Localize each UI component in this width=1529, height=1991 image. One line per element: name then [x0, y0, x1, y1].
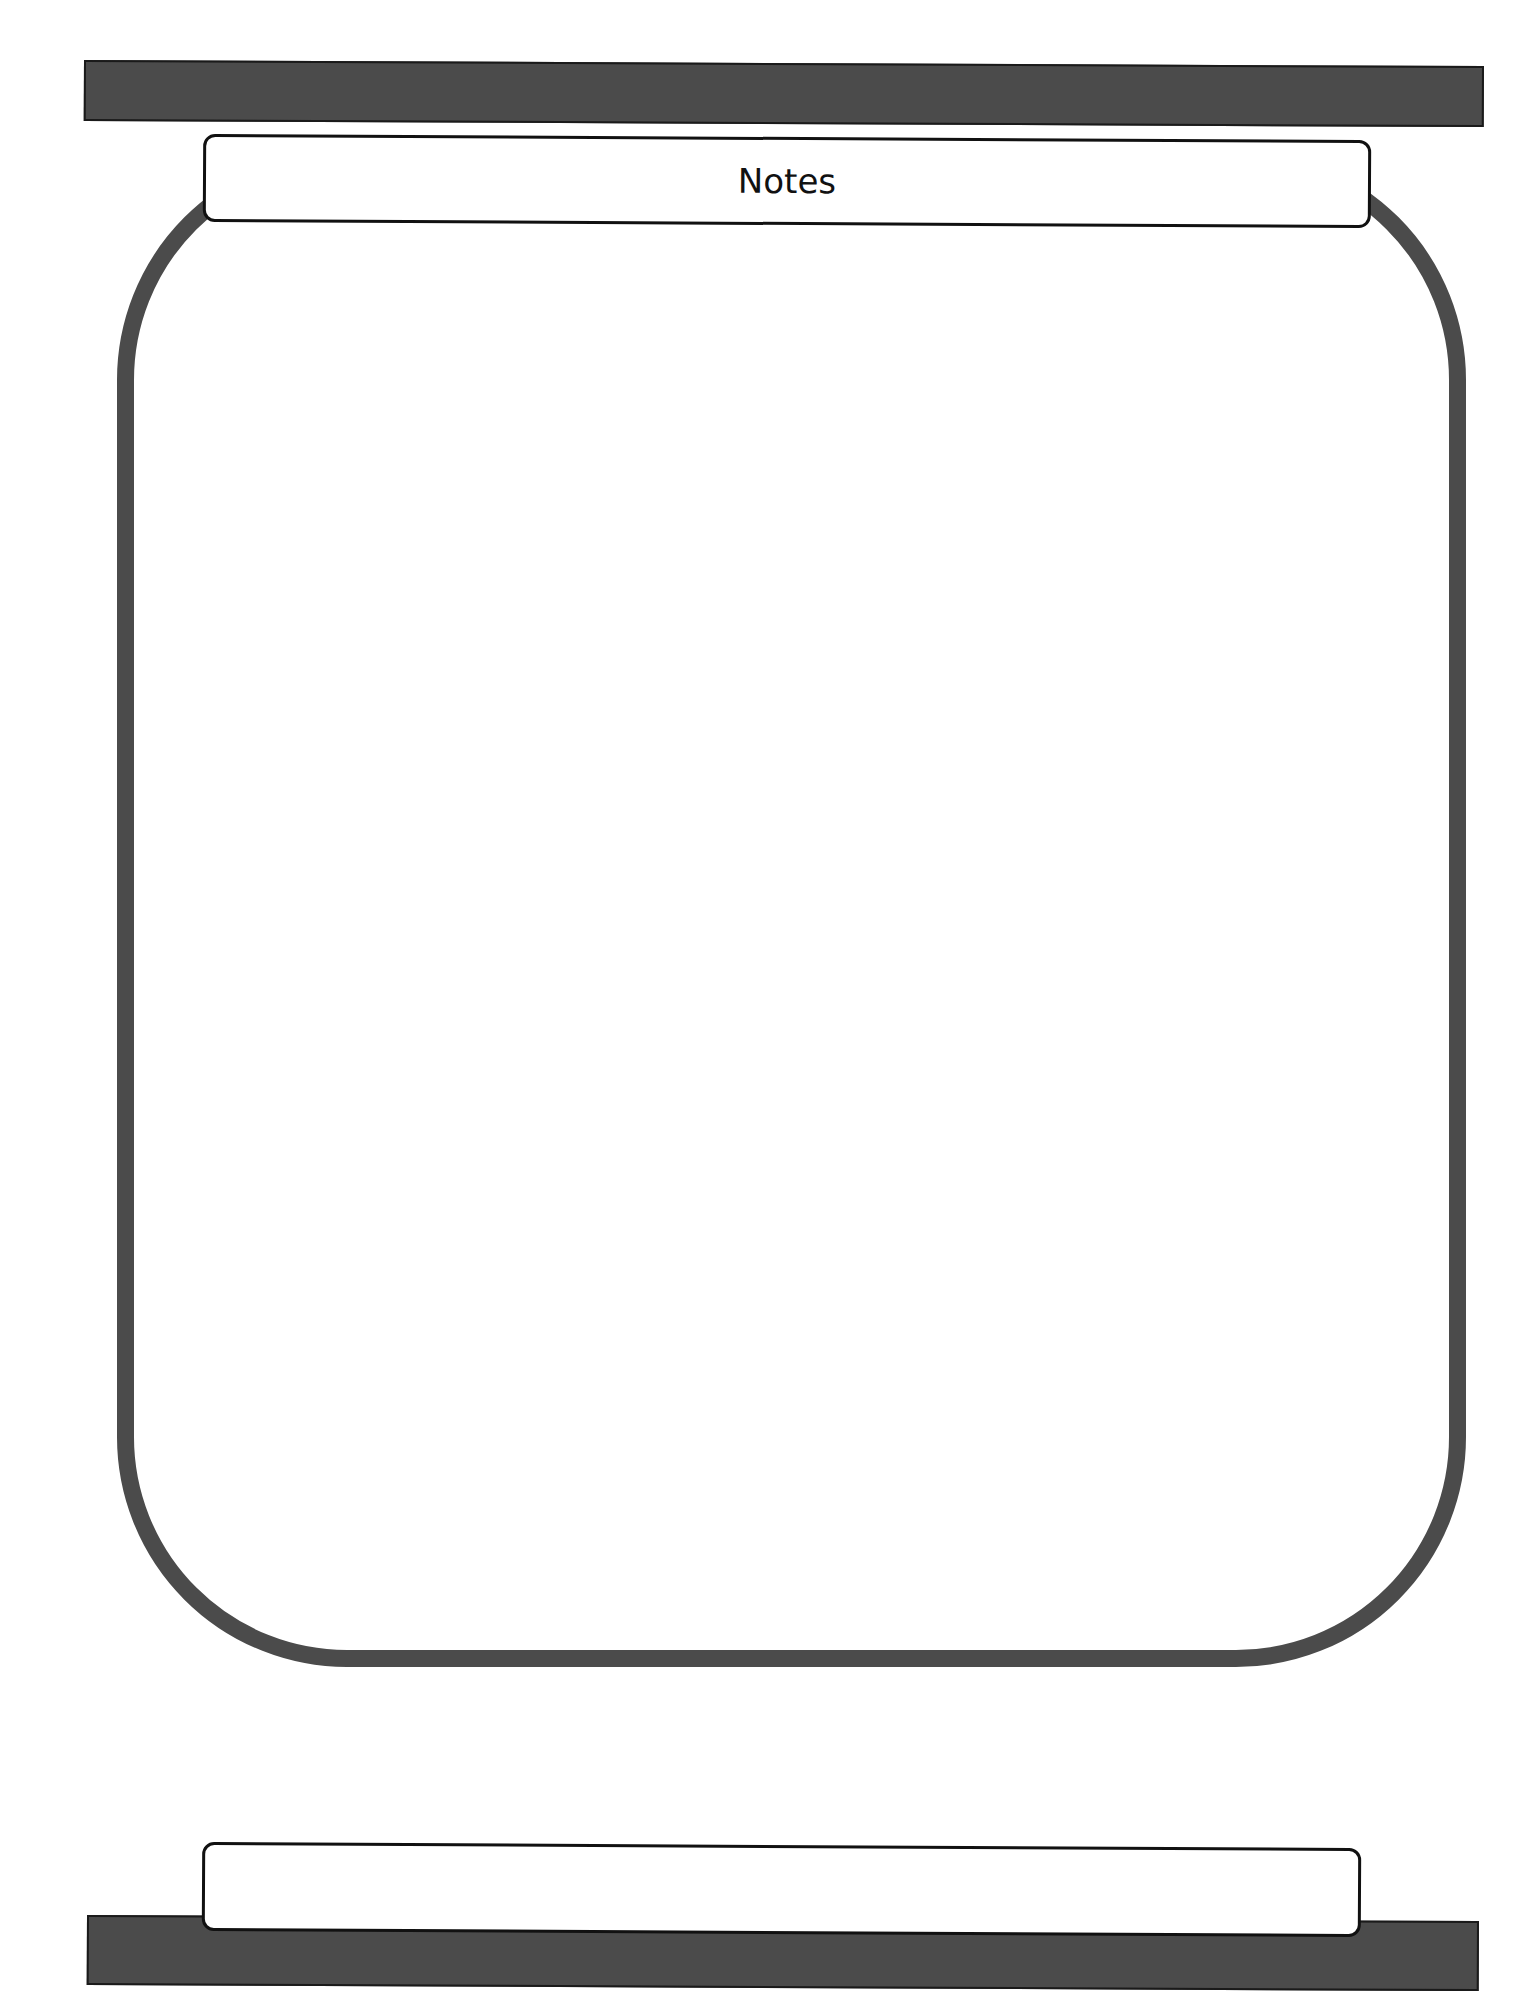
footer-label-box[interactable]	[202, 1842, 1361, 1937]
title-label-box: Notes	[203, 134, 1371, 228]
page-title: Notes	[738, 161, 836, 202]
header-bar	[84, 60, 1484, 127]
notes-writing-area[interactable]	[160, 260, 1425, 1620]
